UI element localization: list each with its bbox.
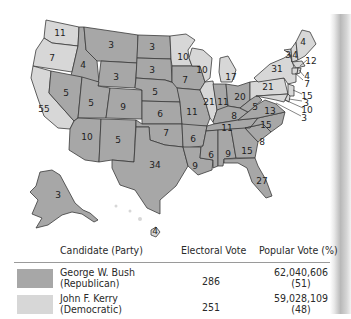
label-ms: 6 bbox=[208, 150, 214, 160]
candidate-cell: John F. Kerry (Democratic) bbox=[60, 293, 122, 315]
label-co: 9 bbox=[120, 102, 126, 112]
label-ut: 5 bbox=[88, 98, 94, 108]
label-wv: 5 bbox=[252, 102, 258, 112]
label-al: 9 bbox=[225, 149, 231, 159]
label-in: 11 bbox=[217, 97, 228, 107]
label-ny: 31 bbox=[271, 64, 282, 74]
label-or: 7 bbox=[49, 53, 55, 63]
popular-vote-cell: 62,040,606 (51) bbox=[269, 267, 333, 289]
label-vt: 3 bbox=[285, 50, 291, 60]
state-alaska bbox=[30, 170, 98, 228]
page-edge-shadow bbox=[330, 14, 351, 314]
republican-color-swatch bbox=[17, 269, 53, 288]
candidate-cell: George W. Bush (Republican) bbox=[60, 267, 135, 289]
electoral-vote-value: 251 bbox=[202, 301, 220, 313]
header-electoral-vote: Electoral Vote bbox=[181, 244, 246, 256]
label-pa: 21 bbox=[262, 82, 273, 92]
democratic-color-swatch bbox=[17, 295, 53, 314]
label-me: 4 bbox=[300, 37, 306, 47]
label-az: 10 bbox=[81, 132, 93, 142]
label-ia: 7 bbox=[182, 75, 188, 85]
label-sd: 3 bbox=[149, 65, 155, 75]
label-sc: 8 bbox=[259, 137, 265, 147]
label-nc: 15 bbox=[260, 120, 271, 130]
label-il: 21 bbox=[203, 97, 214, 107]
state-hawaii-island bbox=[138, 217, 142, 221]
label-tn: 11 bbox=[221, 123, 232, 133]
label-nv: 5 bbox=[63, 88, 69, 98]
label-wi: 10 bbox=[196, 65, 208, 75]
label-mo: 11 bbox=[186, 107, 197, 117]
label-wa: 11 bbox=[54, 28, 65, 38]
label-ak: 3 bbox=[55, 190, 61, 200]
electoral-vote-value: 286 bbox=[202, 275, 220, 287]
label-ca: 55 bbox=[38, 104, 49, 114]
label-mi: 17 bbox=[225, 72, 236, 82]
popular-vote-cell: 59,028,109 (48) bbox=[269, 293, 333, 315]
label-id: 4 bbox=[80, 60, 86, 70]
popular-vote-percent: (48) bbox=[269, 304, 333, 315]
label-nh: 4 bbox=[292, 50, 298, 60]
state-hawaii-island bbox=[115, 205, 118, 208]
popular-vote-percent: (51) bbox=[269, 278, 333, 289]
candidate-party: (Republican) bbox=[60, 278, 135, 289]
label-ma: 12 bbox=[305, 56, 316, 66]
label-mt: 3 bbox=[108, 40, 114, 50]
legend-row-kerry: John F. Kerry (Democratic) 251 59,028,10… bbox=[14, 292, 330, 319]
header-candidate: Candidate (Party) bbox=[60, 244, 143, 256]
label-hi: 4 bbox=[152, 226, 158, 236]
label-ct: 7 bbox=[304, 79, 310, 89]
candidate-party: (Democratic) bbox=[60, 304, 122, 315]
label-ok: 7 bbox=[163, 128, 169, 138]
label-dc: 3 bbox=[301, 113, 307, 123]
label-nd: 3 bbox=[149, 42, 155, 52]
label-nm: 5 bbox=[115, 135, 121, 145]
label-ne: 5 bbox=[152, 87, 158, 97]
label-ks: 6 bbox=[157, 109, 163, 119]
state-hawaii-island bbox=[129, 210, 132, 213]
label-ga: 15 bbox=[241, 146, 252, 156]
label-oh: 20 bbox=[234, 92, 246, 102]
us-electoral-map: 11 7 55 4 5 3 3 5 10 9 5 3 3 5 6 7 34 10… bbox=[0, 0, 330, 240]
label-wy: 3 bbox=[113, 72, 119, 82]
label-va: 13 bbox=[264, 106, 275, 116]
header-popular-vote: Popular Vote (%) bbox=[259, 244, 338, 256]
label-fl: 27 bbox=[256, 176, 267, 186]
state-rhode-island bbox=[297, 68, 301, 74]
label-ky: 8 bbox=[231, 111, 237, 121]
legend-header-row: Candidate (Party) Electoral Vote Popular… bbox=[14, 240, 330, 263]
label-mn: 10 bbox=[177, 52, 189, 62]
label-tx: 34 bbox=[149, 160, 161, 170]
label-la: 9 bbox=[192, 161, 198, 171]
label-ar: 6 bbox=[190, 134, 196, 144]
